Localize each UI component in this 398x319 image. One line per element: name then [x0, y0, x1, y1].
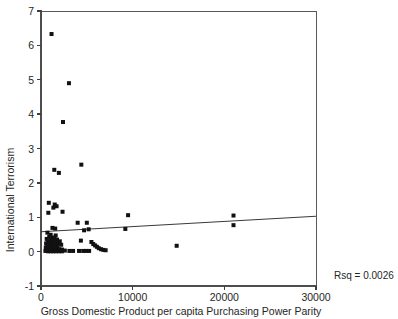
data-point — [126, 213, 130, 217]
data-point — [123, 227, 127, 231]
data-point — [87, 249, 91, 253]
data-point — [79, 163, 83, 167]
data-point — [57, 171, 61, 175]
y-tick-label: 5 — [28, 74, 34, 86]
data-point — [50, 32, 54, 36]
data-point — [46, 211, 50, 215]
y-tick-label: 3 — [28, 143, 34, 155]
data-point — [87, 227, 91, 231]
x-axis-title: Gross Domestic Product per capita Purcha… — [41, 305, 322, 317]
data-point — [52, 168, 56, 172]
y-tick-label: -1 — [25, 280, 34, 292]
y-tick-label: 4 — [28, 108, 34, 120]
data-point — [53, 227, 57, 231]
x-tick-label: 30000 — [301, 291, 330, 303]
y-tick-label: 2 — [28, 177, 34, 189]
data-point — [76, 221, 80, 225]
data-point — [232, 214, 236, 218]
data-point — [77, 249, 81, 253]
chart-canvas: -101234567 0100002000030000 Internationa… — [0, 0, 398, 319]
data-point — [67, 81, 71, 85]
rsq-annotation: Rsq = 0.0026 — [334, 270, 394, 281]
y-axis-title: International Terrorism — [4, 148, 16, 253]
y-tick-label: 0 — [28, 246, 34, 258]
data-point — [71, 249, 75, 253]
data-point — [47, 201, 51, 205]
data-point — [104, 248, 108, 252]
x-tick-label: 10000 — [118, 291, 147, 303]
data-point — [61, 120, 65, 124]
data-point — [232, 223, 236, 227]
data-point — [82, 228, 86, 232]
data-point — [85, 221, 89, 225]
x-tick-label: 0 — [38, 291, 44, 303]
data-point — [79, 239, 83, 243]
x-tick-label: 20000 — [210, 291, 239, 303]
data-point — [60, 249, 64, 253]
data-point — [61, 210, 65, 214]
data-point — [67, 249, 71, 253]
data-point — [51, 206, 55, 210]
y-tick-label: 6 — [28, 39, 34, 51]
data-point — [59, 243, 63, 247]
data-points-group — [43, 32, 235, 253]
x-axis-ticks: 0100002000030000 — [38, 286, 331, 303]
scatter-plot-figure: -101234567 0100002000030000 Internationa… — [0, 0, 398, 319]
y-axis-ticks: -101234567 — [25, 5, 41, 292]
y-tick-label: 1 — [28, 211, 34, 223]
y-tick-label: 7 — [28, 5, 34, 17]
data-point — [175, 244, 179, 248]
